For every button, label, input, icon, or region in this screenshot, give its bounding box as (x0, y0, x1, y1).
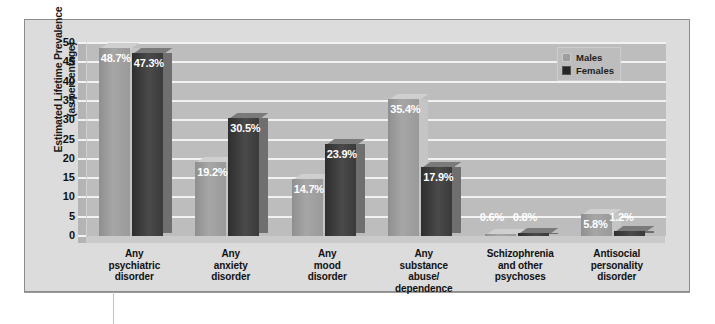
page-horizontal-rule (24, 292, 690, 293)
gridline (87, 196, 666, 198)
x-axis-label-line: Any (86, 248, 183, 260)
x-axis-category-labels: AnypsychiatricdisorderAnyanxietydisorder… (86, 248, 665, 292)
y-axis-tick-label: 15 (53, 172, 75, 183)
y-axis-tick-label: 50 (53, 37, 75, 48)
x-axis-label-line: disorder (86, 271, 183, 283)
x-axis-category-label: Anyanxietydisorder (183, 248, 280, 283)
bar-value-label: 23.9% (327, 149, 357, 160)
legend-item-males: Males (562, 51, 614, 64)
bar-males[interactable] (388, 43, 419, 236)
x-axis-label-line: Schizophrenia (472, 248, 569, 260)
bar-females[interactable] (421, 43, 452, 236)
bar-side-face (356, 144, 365, 233)
legend-item-females: Females (562, 64, 614, 77)
x-axis-label-line: dependence (376, 283, 473, 295)
x-axis-category-label: Anysubstanceabuse/dependence (376, 248, 473, 294)
bar-side-face (259, 118, 268, 233)
bar-front-face (132, 53, 163, 236)
bar-females[interactable] (325, 43, 356, 236)
gridline (87, 139, 666, 141)
bar-females[interactable] (228, 43, 259, 236)
y-axis-tick-label: 0 (53, 230, 75, 241)
bar-females[interactable] (518, 43, 549, 236)
legend-label-males: Males (576, 52, 602, 63)
bar-females[interactable] (132, 43, 163, 236)
y-axis-tick-label: 30 (53, 114, 75, 125)
bar-value-label: 14.7% (294, 184, 324, 195)
x-axis-category-label: Antisocialpersonalitydisorder (569, 248, 666, 283)
gridline (87, 100, 666, 102)
x-axis-label-line: mood (279, 260, 376, 272)
legend-swatch-males-icon (562, 53, 571, 62)
plot-floor (86, 236, 665, 243)
bar-males[interactable] (195, 43, 226, 236)
legend-label-females: Females (576, 65, 614, 76)
bar-value-label: 17.9% (423, 172, 453, 183)
bar-side-face (452, 167, 461, 233)
x-axis-label-line: psychiatric (86, 260, 183, 272)
x-axis-category-label: Anypsychiatricdisorder (86, 248, 183, 283)
page-vertical-rule (113, 292, 114, 324)
bar-front-face (99, 48, 130, 236)
y-axis-tick-label: 5 (53, 211, 75, 222)
x-axis-category-label: Schizophreniaand otherpsychoses (472, 248, 569, 283)
gridline (87, 158, 666, 160)
x-axis-label-line: disorder (183, 271, 280, 283)
bar-value-label: 48.7% (101, 53, 131, 64)
bar-side-face (163, 53, 172, 233)
bar-value-label: 47.3% (134, 58, 164, 69)
x-axis-label-line: anxiety (183, 260, 280, 272)
y-axis-tick-label: 25 (53, 134, 75, 145)
y-axis-tick-labels: 50454035302520151050 (45, 43, 75, 236)
page-canvas: Estimated Lifetime Prevalence (as percen… (0, 0, 715, 324)
bar-males[interactable] (99, 43, 130, 236)
x-axis-label-line: substance (376, 260, 473, 272)
y-axis-tick-label: 45 (53, 56, 75, 67)
bar-males[interactable] (292, 43, 323, 236)
gridline (87, 42, 666, 44)
x-axis-label-line: disorder (569, 271, 666, 283)
x-axis-label-line: disorder (279, 271, 376, 283)
x-axis-category-label: Anymooddisorder (279, 248, 376, 283)
x-axis-label-line: and other (472, 260, 569, 272)
chart-legend: Males Females (557, 47, 621, 81)
x-axis-label-line: personality (569, 260, 666, 272)
bar-front-face (228, 118, 259, 236)
bar-side-face (645, 231, 654, 233)
bar-front-face (388, 99, 419, 236)
bar-value-label: 0.8% (513, 212, 537, 223)
bar-value-label: 30.5% (230, 123, 260, 134)
bar-value-label: 5.8% (583, 219, 607, 230)
x-axis-label-line: Any (183, 248, 280, 260)
x-axis-label-line: Antisocial (569, 248, 666, 260)
bar-males[interactable] (485, 43, 516, 236)
bar-value-label: 35.4% (390, 104, 420, 115)
bar-chart: Estimated Lifetime Prevalence (as percen… (25, 20, 689, 291)
bar-value-label: 1.2% (609, 212, 633, 223)
x-axis-label-line: Any (376, 248, 473, 260)
y-axis-tick-label: 35 (53, 95, 75, 106)
x-axis-label-line: psychoses (472, 271, 569, 283)
gridline (87, 216, 666, 218)
gridline (87, 119, 666, 121)
legend-swatch-females-icon (562, 66, 571, 75)
y-axis-tick-label: 40 (53, 76, 75, 87)
x-axis-label-line: abuse/ (376, 271, 473, 283)
y-axis-tick-label: 20 (53, 153, 75, 164)
bar-value-label: 0.6% (480, 212, 504, 223)
x-axis-label-line: Any (279, 248, 376, 260)
bar-value-label: 19.2% (197, 167, 227, 178)
y-axis-tick-label: 10 (53, 191, 75, 202)
gridline (87, 177, 666, 179)
